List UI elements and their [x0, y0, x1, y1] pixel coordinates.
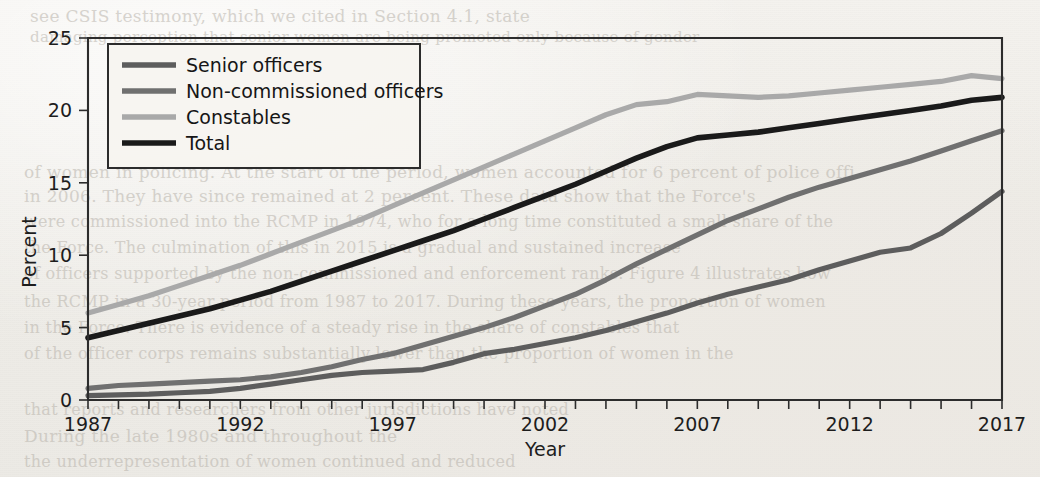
y-tick-label: 10	[48, 244, 72, 266]
legend-label: Constables	[186, 106, 291, 128]
x-tick-label: 2017	[978, 413, 1026, 435]
y-tick-label: 0	[60, 389, 72, 411]
x-tick-label: 1997	[368, 413, 416, 435]
y-tick-label: 15	[48, 172, 72, 194]
x-tick-label: 1992	[216, 413, 264, 435]
legend-label: Senior officers	[186, 54, 322, 76]
y-tick-label: 20	[48, 99, 72, 121]
x-tick-label: 2012	[825, 413, 873, 435]
y-axis-ticks: 0510152025	[48, 27, 88, 411]
line-chart: 0510152025 1987199219972002200720122017 …	[0, 0, 1040, 477]
series-line-non-commissioned-officers	[88, 131, 1002, 389]
series-line-senior-officers	[88, 191, 1002, 395]
chart-legend: Senior officersNon-commissioned officers…	[108, 44, 443, 168]
x-tick-label: 1987	[64, 413, 112, 435]
figure-container: 0510152025 1987199219972002200720122017 …	[0, 0, 1040, 477]
y-tick-label: 5	[60, 317, 72, 339]
legend-label: Total	[185, 132, 230, 154]
x-tick-label: 2007	[673, 413, 721, 435]
legend-label: Non-commissioned officers	[186, 80, 443, 102]
x-tick-label: 2002	[521, 413, 569, 435]
y-tick-label: 25	[48, 27, 72, 49]
x-axis-title: Year	[524, 438, 565, 460]
y-axis-title: Percent	[18, 216, 40, 288]
x-axis-ticks: 1987199219972002200720122017	[64, 400, 1026, 435]
